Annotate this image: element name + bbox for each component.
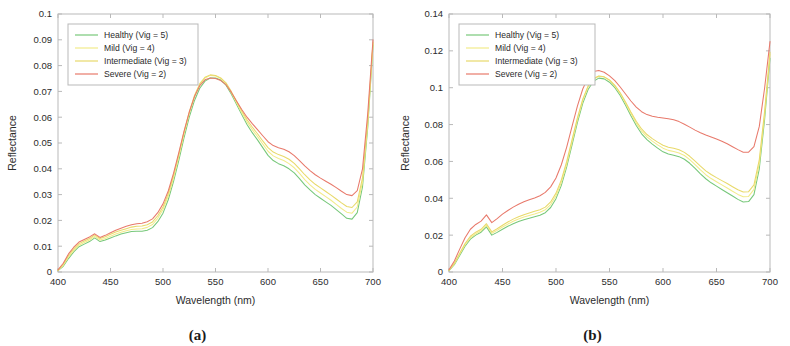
series-line xyxy=(449,55,770,271)
panel-a: 40045050055060065070000.010.020.030.040.… xyxy=(0,0,395,346)
y-axis-title: Reflectance xyxy=(399,115,411,171)
y-axis-title: Reflectance xyxy=(6,115,18,171)
x-tick-label: 600 xyxy=(655,276,671,287)
y-tick-label: 0.14 xyxy=(425,8,444,19)
y-tick-label: 0.1 xyxy=(430,82,443,93)
x-tick-label: 400 xyxy=(441,276,457,287)
y-tick-label: 0.04 xyxy=(34,163,53,174)
legend-label: Intermediate (Vig = 3) xyxy=(104,56,187,66)
x-tick-label: 650 xyxy=(709,276,725,287)
x-axis-title: Wavelength (nm) xyxy=(176,294,256,306)
x-tick-label: 600 xyxy=(260,276,276,287)
y-tick-label: 0.03 xyxy=(34,189,53,200)
x-tick-label: 550 xyxy=(208,276,224,287)
x-tick-label: 500 xyxy=(155,276,171,287)
y-tick-label: 0 xyxy=(438,266,443,277)
x-tick-label: 550 xyxy=(602,276,618,287)
legend-label: Healthy (Vig = 5) xyxy=(495,30,559,40)
y-tick-label: 0.09 xyxy=(34,34,53,45)
x-tick-label: 700 xyxy=(762,276,778,287)
panel-a-sublabel: (a) xyxy=(0,327,395,344)
series-line xyxy=(449,58,770,270)
y-tick-label: 0.08 xyxy=(34,60,53,71)
panel-b: 40045050055060065070000.020.040.060.080.… xyxy=(395,0,790,346)
legend-label: Intermediate (Vig = 3) xyxy=(495,56,578,66)
spectral-reflectance-figure: 40045050055060065070000.010.020.030.040.… xyxy=(0,0,790,346)
y-tick-label: 0.02 xyxy=(34,215,53,226)
y-tick-label: 0.06 xyxy=(34,112,53,123)
x-tick-label: 400 xyxy=(50,276,66,287)
legend-label: Mild (Vig = 4) xyxy=(495,43,546,53)
legend-label: Severe (Vig = 2) xyxy=(104,69,166,79)
x-tick-label: 700 xyxy=(365,276,381,287)
y-tick-label: 0.1 xyxy=(39,8,52,19)
y-tick-label: 0.12 xyxy=(425,45,444,56)
x-tick-label: 650 xyxy=(313,276,329,287)
y-tick-label: 0.04 xyxy=(425,193,444,204)
y-tick-label: 0.01 xyxy=(34,241,53,252)
x-tick-label: 450 xyxy=(103,276,119,287)
x-tick-label: 500 xyxy=(548,276,564,287)
chart-b-canvas: 40045050055060065070000.020.040.060.080.… xyxy=(395,0,790,320)
y-tick-label: 0.07 xyxy=(34,86,53,97)
y-tick-label: 0.08 xyxy=(425,119,444,130)
legend-label: Healthy (Vig = 5) xyxy=(104,30,168,40)
x-tick-label: 450 xyxy=(495,276,511,287)
panel-b-sublabel: (b) xyxy=(395,327,790,344)
chart-a-canvas: 40045050055060065070000.010.020.030.040.… xyxy=(0,0,395,320)
legend-label: Mild (Vig = 4) xyxy=(104,43,155,53)
y-tick-label: 0.05 xyxy=(34,137,53,148)
y-tick-label: 0.02 xyxy=(425,230,444,241)
legend-label: Severe (Vig = 2) xyxy=(495,69,557,79)
y-tick-label: 0 xyxy=(47,266,52,277)
x-axis-title: Wavelength (nm) xyxy=(570,294,650,306)
y-tick-label: 0.06 xyxy=(425,156,444,167)
